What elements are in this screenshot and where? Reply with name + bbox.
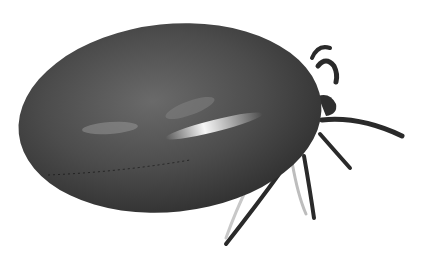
tick-photo: engorged tick [0, 0, 428, 266]
tick-illustration [0, 0, 428, 266]
